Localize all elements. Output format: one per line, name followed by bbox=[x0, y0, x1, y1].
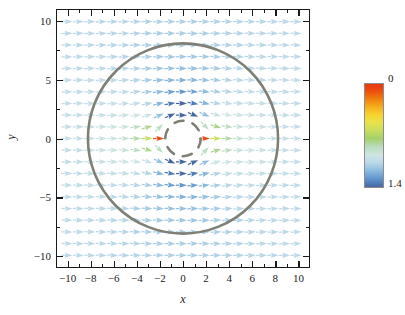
x-major-tick-bottom bbox=[137, 261, 138, 268]
field-arrow bbox=[268, 54, 279, 60]
field-arrow bbox=[279, 171, 290, 176]
x-tick-label: −4 bbox=[131, 272, 143, 284]
field-arrow bbox=[130, 19, 141, 24]
field-arrow bbox=[290, 183, 301, 188]
field-arrow bbox=[96, 217, 107, 223]
field-arrow bbox=[245, 229, 256, 235]
field-arrow bbox=[176, 218, 187, 223]
field-arrow bbox=[256, 171, 267, 177]
field-arrow bbox=[256, 229, 267, 235]
field-arrow bbox=[73, 241, 84, 246]
field-arrow bbox=[233, 182, 245, 188]
field-arrow bbox=[210, 122, 222, 130]
field-arrow bbox=[256, 19, 267, 24]
x-major-tick-top bbox=[137, 9, 138, 16]
field-arrow bbox=[73, 124, 84, 129]
field-arrow bbox=[141, 123, 153, 131]
field-arrow bbox=[256, 54, 267, 60]
field-arrow bbox=[187, 31, 198, 36]
field-arrow bbox=[233, 194, 244, 200]
field-arrow bbox=[141, 182, 153, 189]
field-arrow bbox=[290, 54, 301, 59]
field-arrow bbox=[222, 65, 233, 71]
x-minor-tick-bottom bbox=[148, 264, 149, 268]
x-tick-label: −2 bbox=[154, 272, 166, 284]
field-arrow bbox=[153, 206, 164, 212]
field-arrow bbox=[164, 100, 176, 107]
field-arrow bbox=[199, 65, 210, 71]
field-arrow bbox=[198, 158, 210, 167]
field-arrow bbox=[267, 194, 278, 200]
field-arrow bbox=[119, 147, 130, 153]
field-arrow bbox=[119, 229, 130, 235]
field-arrow bbox=[119, 31, 130, 36]
field-arrow bbox=[245, 42, 256, 48]
field-arrow bbox=[222, 123, 234, 129]
field-arrow bbox=[290, 253, 301, 258]
field-arrow bbox=[73, 253, 84, 258]
field-arrow bbox=[221, 159, 233, 166]
x-major-tick-bottom bbox=[160, 261, 161, 268]
field-arrow bbox=[210, 182, 222, 189]
field-arrow bbox=[245, 171, 256, 177]
field-arrow bbox=[245, 89, 256, 95]
field-arrow bbox=[233, 19, 244, 24]
x-tick-label: 4 bbox=[226, 272, 232, 284]
field-arrow bbox=[73, 89, 84, 94]
field-arrow bbox=[130, 66, 141, 72]
field-arrow bbox=[198, 99, 210, 107]
field-arrow bbox=[210, 194, 222, 200]
field-arrow bbox=[130, 182, 142, 188]
field-arrow bbox=[96, 253, 107, 258]
field-arrow bbox=[130, 31, 141, 36]
field-arrow bbox=[279, 66, 290, 71]
field-arrow bbox=[84, 136, 95, 141]
field-arrow bbox=[221, 111, 233, 118]
field-arrow bbox=[61, 171, 72, 176]
field-arrow bbox=[164, 170, 176, 177]
field-arrow bbox=[187, 100, 199, 107]
field-arrow bbox=[176, 241, 187, 246]
y-major-tick-right bbox=[303, 80, 310, 81]
field-arrow bbox=[73, 218, 84, 223]
field-arrow bbox=[176, 19, 187, 24]
x-minor-tick-bottom bbox=[264, 264, 265, 268]
field-arrow bbox=[107, 253, 118, 258]
field-arrow bbox=[210, 54, 221, 60]
field-arrow bbox=[199, 206, 210, 212]
field-arrow bbox=[256, 218, 267, 224]
field-arrow bbox=[142, 253, 153, 258]
field-arrow bbox=[153, 122, 164, 134]
field-arrow bbox=[107, 229, 118, 235]
field-arrow bbox=[61, 42, 72, 47]
field-arrow bbox=[84, 31, 95, 36]
field-arrow bbox=[153, 253, 164, 258]
field-arrow bbox=[153, 89, 165, 96]
field-arrow bbox=[290, 124, 301, 129]
field-arrow bbox=[256, 148, 267, 153]
field-arrow bbox=[164, 194, 175, 200]
field-arrow bbox=[176, 194, 187, 199]
field-arrow bbox=[268, 218, 279, 224]
field-arrow bbox=[153, 77, 164, 83]
field-arrow bbox=[222, 19, 233, 24]
field-arrow bbox=[245, 112, 256, 118]
field-arrow bbox=[290, 194, 301, 199]
field-arrow bbox=[141, 77, 153, 83]
field-arrow bbox=[130, 194, 142, 200]
field-arrow bbox=[210, 218, 221, 224]
field-arrow bbox=[153, 241, 164, 246]
field-arrow bbox=[73, 229, 84, 234]
field-arrow bbox=[164, 218, 175, 223]
field-arrow bbox=[118, 159, 130, 165]
x-tick-label: −10 bbox=[59, 272, 76, 284]
field-arrow bbox=[187, 54, 198, 59]
field-arrow bbox=[268, 42, 279, 47]
field-arrow bbox=[279, 218, 290, 223]
field-arrow bbox=[290, 159, 301, 164]
field-arrow bbox=[84, 253, 95, 258]
field-arrow bbox=[268, 19, 279, 24]
field-arrow bbox=[245, 54, 256, 60]
x-minor-tick-bottom bbox=[102, 264, 103, 268]
field-arrow bbox=[245, 77, 256, 83]
